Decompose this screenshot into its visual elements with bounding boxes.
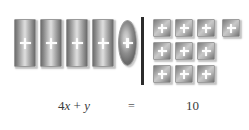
unit-tile[interactable] (153, 19, 171, 37)
unit-tile[interactable] (175, 65, 193, 83)
x-tile[interactable] (40, 19, 62, 67)
algebra-tile-diagram: 4x + y = 10 (0, 0, 249, 130)
equation-left-side: 4x + y (58, 99, 90, 112)
unit-tile[interactable] (197, 65, 215, 83)
unit-tile[interactable] (153, 65, 171, 83)
equals-divider-bar (141, 17, 144, 85)
y-tile[interactable] (118, 20, 137, 66)
x-tile[interactable] (14, 19, 36, 67)
unit-tile[interactable] (197, 19, 215, 37)
x-tile[interactable] (66, 19, 88, 67)
equation-variable-y: y (84, 98, 90, 113)
unit-tile[interactable] (153, 42, 171, 60)
x-tile[interactable] (92, 19, 114, 67)
unit-tile[interactable] (197, 42, 215, 60)
equation-plus-operator: + (74, 98, 81, 113)
equation-right-side: 10 (186, 99, 199, 112)
unit-tile[interactable] (222, 19, 240, 37)
unit-tile[interactable] (175, 42, 193, 60)
equation-equals-sign: = (128, 100, 135, 112)
unit-tile[interactable] (175, 19, 193, 37)
